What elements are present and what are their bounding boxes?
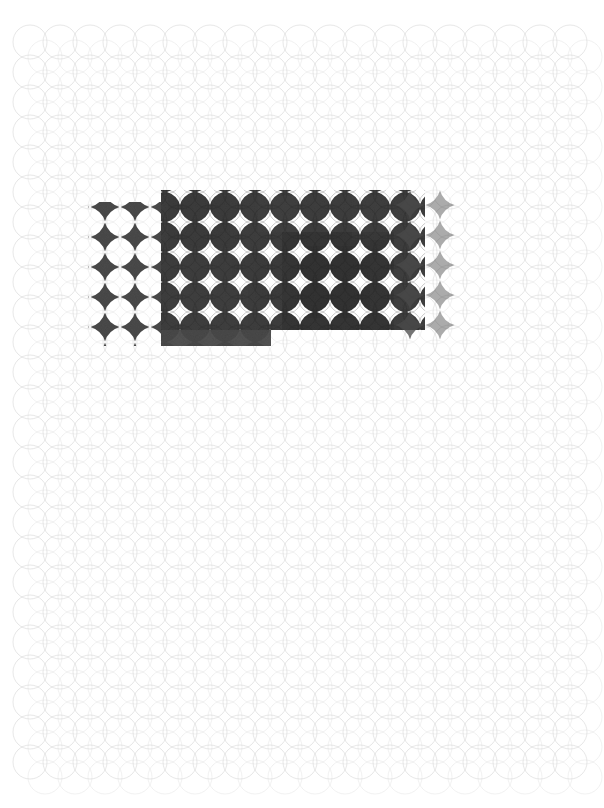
circle-lattice-artwork	[0, 0, 604, 808]
region-dark-block-step	[161, 330, 271, 346]
artwork-canvas: Overlapping Circle Lattice with Dark Blo…	[0, 0, 604, 808]
